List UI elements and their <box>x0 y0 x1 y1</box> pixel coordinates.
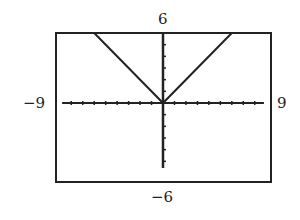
graph-window <box>0 0 300 220</box>
axes <box>62 34 264 168</box>
